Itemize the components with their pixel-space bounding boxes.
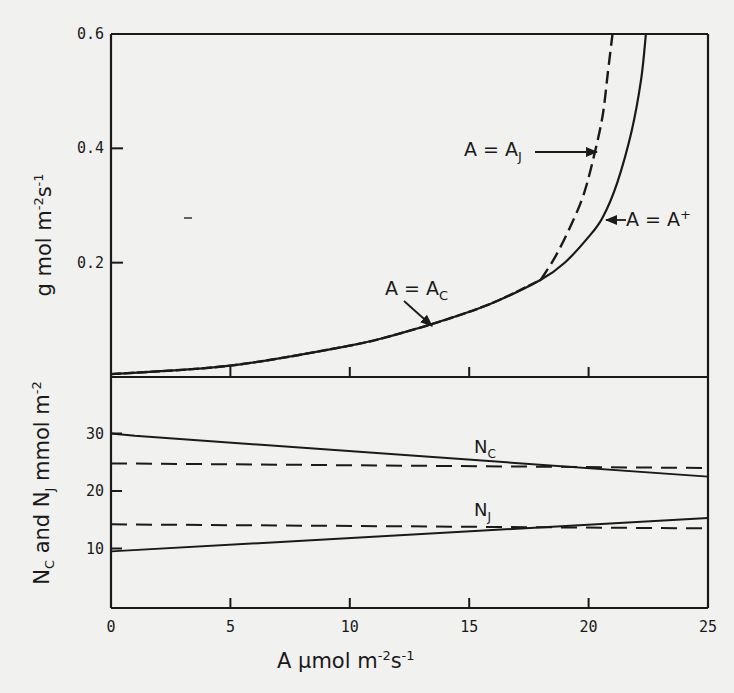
lower-y-title-n2sub: J bbox=[42, 488, 57, 492]
x-tick-label: 25 bbox=[699, 618, 717, 636]
axes-frame bbox=[111, 34, 708, 608]
tick-marks bbox=[111, 148, 589, 608]
lower-series-2 bbox=[111, 518, 708, 551]
annotation-nj-text: N bbox=[474, 499, 487, 520]
lower-series-3 bbox=[111, 524, 708, 528]
lower-series-1 bbox=[111, 463, 708, 468]
lower-y-tick-label: 20 bbox=[86, 482, 104, 500]
upper-y-axis-title: g mol m-2s-1 bbox=[31, 173, 56, 296]
upper-series-1 bbox=[541, 34, 613, 280]
annotation-aplus-sup: + bbox=[680, 207, 691, 222]
upper-y-tick-label: 0.6 bbox=[77, 25, 104, 43]
arrow-ac bbox=[404, 301, 432, 326]
annotation-nj-sub: J bbox=[487, 510, 491, 524]
upper-y-title-exp2: -1 bbox=[31, 173, 46, 186]
lower-series-0 bbox=[111, 434, 708, 477]
lower-y-title-exp: -2 bbox=[29, 381, 44, 394]
x-tick-label: 20 bbox=[580, 618, 598, 636]
x-axis-title: A µmol m-2s-1 bbox=[277, 648, 415, 673]
tick-labels: 05101520250.60.40.2302010 bbox=[77, 25, 717, 636]
x-axis-title-mid: s bbox=[391, 649, 402, 673]
upper-y-tick-label: 0.2 bbox=[77, 254, 104, 272]
upper-series-2 bbox=[111, 280, 541, 374]
x-axis-title-exp1: -2 bbox=[378, 648, 391, 663]
annotation-aj-text: A = A bbox=[464, 138, 518, 160]
annotation-a-equals-aplus: A = A+ bbox=[626, 207, 691, 230]
lower-y-title-unit: mmol m bbox=[30, 394, 54, 487]
lower-y-axis-title: NC and NJ mmol m-2 bbox=[29, 381, 57, 585]
x-axis-title-exp2: -1 bbox=[402, 648, 415, 663]
annotation-a-equals-aj: A = AJ bbox=[464, 138, 522, 164]
x-tick-label: 10 bbox=[341, 618, 359, 636]
lower-y-title-and: and N bbox=[30, 491, 54, 560]
lower-panel-curves bbox=[111, 434, 708, 552]
x-axis-title-main: A µmol m bbox=[277, 649, 378, 673]
upper-y-title-exp1: -2 bbox=[31, 197, 46, 210]
annotation-nc: NC bbox=[474, 436, 496, 461]
lower-y-tick-label: 10 bbox=[86, 540, 104, 558]
upper-panel-curves bbox=[111, 34, 646, 374]
upper-y-tick-label: 0.4 bbox=[77, 139, 104, 157]
x-tick-label: 15 bbox=[460, 618, 478, 636]
annotation-nc-text: N bbox=[474, 436, 487, 457]
x-tick-label: 0 bbox=[106, 618, 115, 636]
lower-y-title-n1: N bbox=[30, 569, 54, 585]
annotation-a-equals-ac: A = AC bbox=[385, 277, 448, 303]
annotation-nc-sub: C bbox=[487, 447, 495, 461]
annotation-ac-sub: C bbox=[439, 288, 448, 303]
upper-y-title-mid: s bbox=[32, 186, 56, 197]
annotation-aplus-text: A = A bbox=[626, 208, 680, 230]
upper-y-title-main: g mol m bbox=[32, 210, 56, 296]
lower-y-tick-label: 30 bbox=[86, 425, 104, 443]
lower-y-title-n1sub: C bbox=[42, 560, 57, 569]
upper-series-0 bbox=[111, 34, 646, 374]
annotation-aj-sub: J bbox=[518, 149, 522, 164]
annotation-ac-text: A = A bbox=[385, 277, 439, 299]
chart: 05101520250.60.40.2302010 bbox=[0, 0, 734, 693]
x-tick-label: 5 bbox=[226, 618, 235, 636]
annotation-nj: NJ bbox=[474, 499, 491, 524]
